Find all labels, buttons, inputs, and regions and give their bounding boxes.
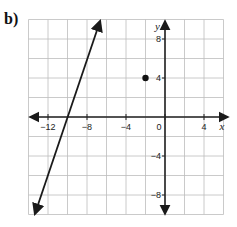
x-tick-label: −8 bbox=[82, 122, 92, 132]
x-tick-label: −4 bbox=[121, 122, 131, 132]
y-tick-label: 8 bbox=[156, 34, 161, 44]
x-tick-label: −12 bbox=[40, 122, 55, 132]
x-tick-label: 0 bbox=[156, 122, 161, 132]
y-tick-label: 4 bbox=[156, 73, 161, 83]
x-axis-label: x bbox=[219, 120, 225, 132]
y-tick-label: −4 bbox=[151, 151, 161, 161]
y-axis-label: y bbox=[154, 20, 160, 32]
coordinate-plane-chart: xy −12−8−40484−4−8 bbox=[0, 0, 237, 227]
data-point bbox=[142, 75, 148, 81]
axes: xy bbox=[31, 20, 228, 214]
y-tick-label: −8 bbox=[151, 190, 161, 200]
x-tick-label: 4 bbox=[201, 122, 206, 132]
